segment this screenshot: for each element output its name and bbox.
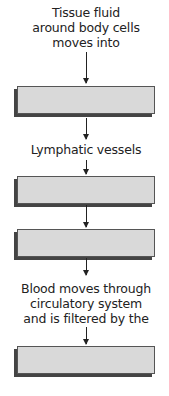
blank-box-2 xyxy=(17,176,155,204)
label-line: and is filtered by the xyxy=(0,311,169,326)
label-line: circulatory system xyxy=(0,296,169,311)
arrow-down-icon xyxy=(86,118,87,139)
label-line: around body cells xyxy=(0,20,169,35)
label-line: moves into xyxy=(0,35,169,50)
blank-box-3 xyxy=(17,229,155,257)
arrow-down-icon xyxy=(86,258,87,275)
arrow-down-icon xyxy=(86,205,87,227)
arrow-down-icon xyxy=(86,327,87,344)
arrow-down-icon xyxy=(86,160,87,174)
label-line: Tissue fluid xyxy=(0,5,169,20)
step-label-1: Tissue fluid around body cells moves int… xyxy=(0,5,169,50)
step-label-3: Blood moves through circulatory system a… xyxy=(0,281,169,326)
blank-box-4 xyxy=(17,346,155,374)
label-line: Blood moves through xyxy=(0,281,169,296)
label-line: Lymphatic vessels xyxy=(0,142,169,157)
arrow-down-icon xyxy=(86,52,87,83)
step-label-2: Lymphatic vessels xyxy=(0,142,169,157)
blank-box-1 xyxy=(17,86,155,114)
